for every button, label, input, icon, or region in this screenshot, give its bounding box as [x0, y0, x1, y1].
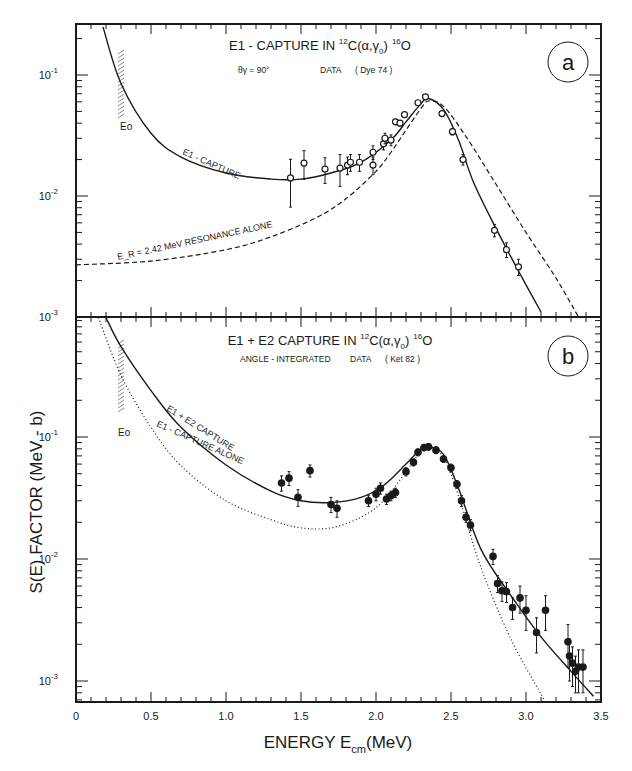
e0-hatch	[118, 388, 124, 392]
data-point	[307, 467, 313, 473]
panel-b-subtitle-angle: ANGLE - INTEGRATED	[240, 354, 331, 364]
data-point	[301, 160, 307, 166]
x-tick-label: 3.0	[518, 710, 533, 722]
panel-a-subtitle-data: DATA	[320, 65, 342, 75]
data-point	[377, 485, 383, 491]
x-tick-label: 0	[73, 710, 79, 722]
data-point	[533, 629, 539, 635]
e0-hatch	[118, 58, 124, 62]
data-point	[382, 135, 388, 141]
data-point	[370, 149, 376, 155]
panel-a-e0-label: Eo	[120, 121, 133, 132]
data-point	[288, 175, 294, 181]
data-point	[439, 111, 445, 117]
data-point	[403, 468, 409, 474]
data-point	[425, 444, 431, 450]
data-point	[373, 491, 379, 497]
e0-hatch	[118, 404, 124, 408]
solid-curve	[106, 318, 594, 697]
e0-hatch	[118, 392, 124, 396]
data-point	[433, 447, 439, 453]
data-point	[357, 159, 363, 165]
data-point	[328, 501, 334, 507]
data-point	[516, 264, 522, 270]
data-point	[278, 480, 284, 486]
panel-a-subtitle-ref: ( Dye 74 )	[355, 65, 392, 75]
panel-b-label: b	[562, 344, 574, 369]
data-point	[504, 247, 510, 253]
e0-hatch	[118, 106, 124, 110]
panel-a-label: a	[562, 50, 575, 75]
e0-hatch	[118, 352, 124, 356]
e0-hatch	[118, 98, 124, 102]
y-tick-label: 10-1	[39, 66, 59, 81]
data-point	[492, 227, 498, 233]
x-tick-label: 2.0	[368, 710, 383, 722]
panel-b-subtitle-ref: ( Ket 82 )	[385, 354, 420, 364]
y-tick-label: 10-3	[39, 308, 59, 323]
data-point	[397, 120, 403, 126]
e0-hatch	[118, 94, 124, 98]
data-point	[566, 653, 572, 659]
panel-b-e0-label: Eo	[118, 427, 131, 438]
data-point	[322, 166, 328, 172]
y-tick-label: 10-2	[39, 187, 59, 202]
e0-hatch	[118, 372, 124, 376]
data-point	[295, 494, 301, 500]
e0-hatch	[118, 360, 124, 364]
data-point	[580, 664, 586, 670]
data-point	[450, 129, 456, 135]
data-point	[392, 489, 398, 495]
data-point	[503, 588, 509, 594]
x-tick-label: 2.5	[443, 710, 458, 722]
e0-hatch	[118, 102, 124, 106]
x-axis-label: ENERGY Ecm(MeV)	[264, 733, 413, 755]
e0-hatch	[118, 408, 124, 412]
e0-hatch	[118, 396, 124, 400]
x-tick-label: 1.5	[293, 710, 308, 722]
data-point	[463, 514, 469, 520]
e0-hatch	[118, 70, 124, 74]
data-point	[370, 162, 376, 168]
data-point	[286, 475, 292, 481]
data-point	[509, 604, 515, 610]
panel-a-title: E1 - CAPTURE IN 12C(α,γ0)16O	[229, 37, 411, 56]
data-point	[440, 456, 446, 462]
e0-hatch	[118, 364, 124, 368]
data-point	[569, 660, 575, 666]
x-tick-label: 3.5	[593, 710, 608, 722]
data-point	[460, 157, 466, 163]
data-point	[415, 449, 421, 455]
y-tick-label: 10-1	[39, 428, 59, 443]
e0-hatch	[118, 62, 124, 66]
data-point	[448, 465, 454, 471]
tick-labels: 10-110-210-310-110-210-300.51.01.52.02.5…	[39, 66, 609, 722]
panel-a-curve-label-e1: E1 - CAPTURE	[181, 147, 242, 181]
data-point	[467, 522, 473, 528]
data-point	[337, 165, 343, 171]
e0-hatch	[118, 114, 124, 118]
panel-a-curve-label-resonance: E_R = 2.42 MeV RESONANCE ALONE	[116, 219, 273, 262]
y-tick-label: 10-3	[39, 672, 59, 687]
x-tick-label: 1.0	[218, 710, 233, 722]
e0-hatch	[118, 90, 124, 94]
data-point	[402, 112, 408, 118]
data-point	[517, 595, 523, 601]
data-point	[365, 498, 371, 504]
data-point	[458, 498, 464, 504]
data-point	[454, 481, 460, 487]
data-point	[415, 100, 421, 106]
panel-b	[99, 318, 594, 708]
e0-hatch	[118, 380, 124, 384]
y-tick-label: 10-2	[39, 550, 59, 565]
data-point	[542, 607, 548, 613]
e0-hatch	[118, 384, 124, 388]
e0-hatch	[118, 356, 124, 360]
data-point	[348, 159, 354, 165]
data-point	[490, 553, 496, 559]
data-point	[334, 505, 340, 511]
data-point	[388, 137, 394, 143]
x-tick-label: 0.5	[143, 710, 158, 722]
figure: E1 - CAPTURE IN 12C(α,γ0)16O θγ = 90° DA…	[0, 0, 632, 771]
panel-b-title: E1 + E2 CAPTURE IN 12C(α,γ0)16O	[228, 332, 433, 351]
